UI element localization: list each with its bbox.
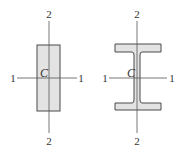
axis-1-right-label: 1 [78,72,84,84]
axis-2-top-label: 2 [134,8,140,20]
i-beam-section: 2 2 1 1 C [102,8,175,147]
i-beam-shape [115,44,161,110]
axis-1-left-label: 1 [10,72,16,84]
axis-2-top-label: 2 [46,8,52,20]
axis-1-left-label: 1 [102,72,108,84]
cross-sections-diagram: 2 2 1 1 C 2 2 1 1 C [0,0,186,157]
centroid-label: C [40,66,49,80]
axis-2-bottom-label: 2 [134,135,140,147]
rectangle-section: 2 2 1 1 C [10,8,84,147]
centroid-label: C [127,66,136,80]
axis-2-bottom-label: 2 [46,135,52,147]
axis-1-right-label: 1 [169,72,175,84]
